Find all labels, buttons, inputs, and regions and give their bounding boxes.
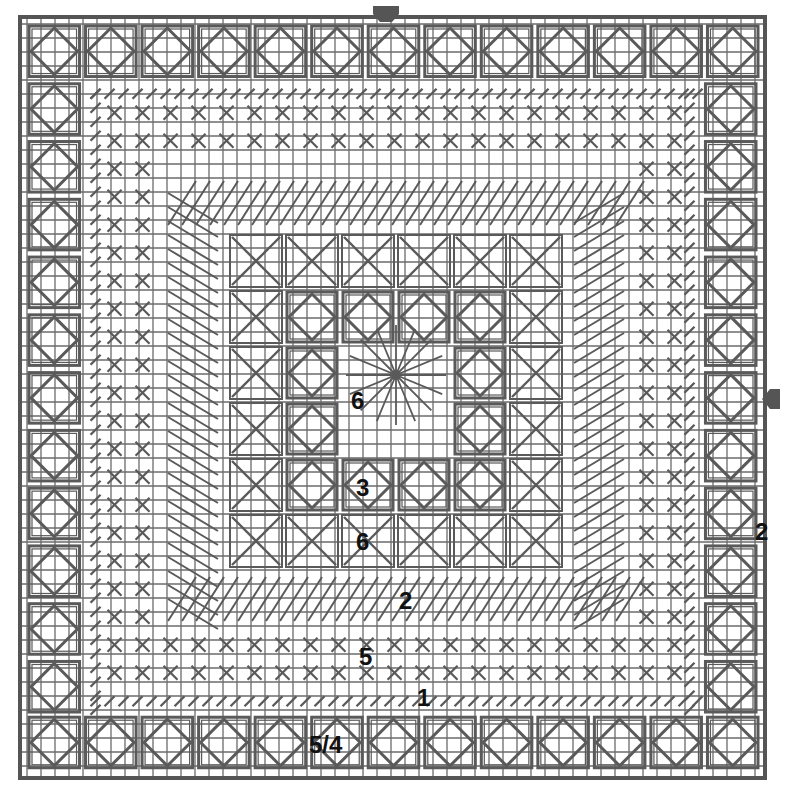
diamond-stitch <box>457 294 503 340</box>
label-slant: 2 <box>399 589 412 613</box>
diamond-stitch <box>457 350 503 396</box>
diamond-stitch <box>483 28 530 75</box>
diamond-stitch <box>707 606 754 653</box>
diamond-stitch <box>31 201 78 248</box>
border-square <box>594 717 645 768</box>
border-square <box>29 257 80 308</box>
label-edge: 1 <box>417 686 430 710</box>
border-square <box>29 546 80 597</box>
border-square <box>399 460 449 510</box>
diamond-stitch <box>653 719 700 766</box>
diamond-stitch <box>457 462 503 508</box>
diamond-stitch <box>31 317 78 364</box>
diamond-stitch <box>596 719 643 766</box>
diamond-stitch <box>31 259 78 306</box>
diamond-stitch <box>289 406 335 452</box>
border-square <box>399 292 449 342</box>
border-square <box>368 717 419 768</box>
border-square <box>287 460 337 510</box>
diamond-stitch <box>483 719 530 766</box>
border-square <box>29 84 80 135</box>
border-square <box>707 26 758 77</box>
diamond-stitch <box>257 719 304 766</box>
border-square <box>29 430 80 481</box>
stitch-chart <box>0 0 785 795</box>
label-center-block: 3 <box>356 476 369 500</box>
diamond-stitch <box>707 86 754 133</box>
border-square <box>29 661 80 712</box>
diamond-stitch <box>31 375 78 422</box>
border-square <box>707 717 758 768</box>
border-square <box>312 26 363 77</box>
border-square <box>29 199 80 250</box>
border-square <box>455 292 505 342</box>
border-square <box>368 26 419 77</box>
label-cross: 5 <box>359 645 372 669</box>
border-square <box>287 292 337 342</box>
diamond-stitch <box>540 719 587 766</box>
border-square <box>255 26 306 77</box>
diamond-stitch <box>31 663 78 710</box>
diamond-stitch <box>653 28 700 75</box>
border-square <box>287 348 337 398</box>
diamond-stitch <box>345 294 391 340</box>
border-square <box>594 26 645 77</box>
diamond-stitch <box>289 350 335 396</box>
label-border: 5/4 <box>309 733 342 757</box>
border-square <box>29 604 80 655</box>
diamond-stitch <box>707 663 754 710</box>
diamond-stitch <box>201 719 248 766</box>
border-square <box>287 404 337 454</box>
diamond-stitch <box>401 294 447 340</box>
diamond-stitch <box>709 719 756 766</box>
diamond-stitch <box>707 201 754 248</box>
border-square <box>455 348 505 398</box>
diamond-stitch <box>707 548 754 595</box>
diamond-stitch <box>707 375 754 422</box>
border-square <box>29 142 80 193</box>
diamond-stitch <box>707 259 754 306</box>
border-square <box>29 315 80 366</box>
border-square <box>199 26 250 77</box>
diamond-stitch <box>401 462 447 508</box>
diamond-stitch <box>596 28 643 75</box>
diamond-stitch <box>289 294 335 340</box>
border-square <box>29 26 80 77</box>
diamond-stitch <box>31 719 78 766</box>
diamond-stitch <box>540 28 587 75</box>
border-square <box>455 404 505 454</box>
border-square <box>255 717 306 768</box>
diamond-stitch <box>31 606 78 653</box>
diamond-stitch <box>257 28 304 75</box>
diamond-stitch <box>457 406 503 452</box>
label-right-border: 2 <box>755 520 768 544</box>
label-lower-block: 6 <box>356 530 369 554</box>
border-square <box>29 717 80 768</box>
diamond-stitch <box>707 317 754 364</box>
diamond-stitch <box>709 28 756 75</box>
border-square <box>199 717 250 768</box>
border-square <box>455 460 505 510</box>
diamond-stitch <box>31 28 78 75</box>
diamond-stitch <box>427 28 474 75</box>
outer-frame <box>20 17 765 778</box>
border-square <box>651 26 702 77</box>
diamond-stitch <box>289 462 335 508</box>
border-square <box>343 292 393 342</box>
diamond-stitch <box>427 719 474 766</box>
border-square <box>651 717 702 768</box>
star-center <box>391 370 401 380</box>
diamond-stitch <box>201 28 248 75</box>
diamond-stitch <box>31 548 78 595</box>
label-center-star: 6 <box>351 389 364 413</box>
diamond-stitch <box>31 86 78 133</box>
